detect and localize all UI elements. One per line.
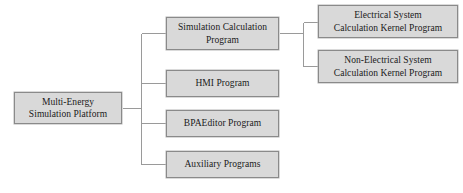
node-auxiliary-programs[interactable]: Auxiliary Programs [166,151,279,178]
node-label: Multi-Energy Simulation Platform [26,96,110,121]
node-simulation-calculation-program[interactable]: Simulation Calculation Program [166,17,279,50]
node-multi-energy-simulation-platform[interactable]: Multi-Energy Simulation Platform [14,92,122,124]
node-label: Auxiliary Programs [181,158,263,171]
node-label: HMI Program [192,77,252,90]
node-label: Simulation Calculation Program [175,21,270,46]
node-non-electrical-system-calculation-kernel-program[interactable]: Non-Electrical System Calculation Kernel… [318,50,458,83]
node-hmi-program[interactable]: HMI Program [166,70,279,97]
diagram-canvas: Multi-Energy Simulation Platform Simulat… [0,0,463,193]
node-bpaeditor-program[interactable]: BPAEditor Program [166,110,279,137]
node-label: Non-Electrical System Calculation Kernel… [331,54,445,79]
node-label: Electrical System Calculation Kernel Pro… [331,9,445,34]
node-electrical-system-calculation-kernel-program[interactable]: Electrical System Calculation Kernel Pro… [318,5,458,38]
node-label: BPAEditor Program [181,117,264,130]
